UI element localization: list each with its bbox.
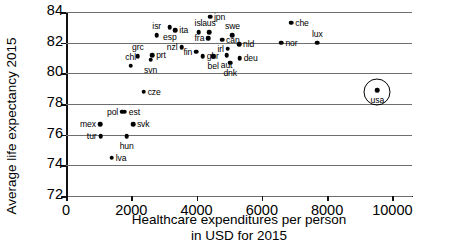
data-point-ita bbox=[173, 28, 178, 33]
data-point-label-irl: irl bbox=[218, 44, 224, 54]
data-point-gbr bbox=[200, 54, 205, 59]
data-point-fra bbox=[206, 36, 211, 41]
data-point-tur bbox=[98, 134, 103, 139]
data-point-label-swe: swe bbox=[225, 21, 240, 31]
data-point-label-nld: nld bbox=[243, 39, 254, 49]
data-point-label-svn: svn bbox=[144, 65, 157, 75]
data-point-prt bbox=[150, 53, 155, 58]
y-tick-label: 72 bbox=[47, 186, 63, 202]
data-point-label-pol: pol bbox=[107, 107, 118, 117]
x-tick-mark bbox=[392, 196, 394, 201]
data-point-svk bbox=[131, 122, 136, 127]
data-point-label-prt: prt bbox=[156, 50, 166, 60]
data-point-cze bbox=[141, 89, 146, 94]
y-tick-label: 74 bbox=[47, 155, 63, 171]
data-point-label-aus: aus bbox=[202, 18, 216, 28]
plot-area: 72747678808284 turmexlvapolesthunsvkchlc… bbox=[66, 12, 412, 196]
data-point-grc bbox=[136, 54, 141, 59]
data-point-esp bbox=[168, 25, 173, 30]
data-point-label-mex: mex bbox=[80, 119, 96, 129]
data-point-label-lva: lva bbox=[116, 153, 127, 163]
data-point-label-isr: isr bbox=[152, 21, 161, 31]
y-tick-label: 78 bbox=[47, 94, 63, 110]
data-point-aus bbox=[207, 30, 212, 35]
data-point-lva bbox=[109, 155, 114, 160]
data-point-label-fra: fra bbox=[195, 33, 205, 43]
scatter-chart-figure: Average life expectancy 2015 Healthcare … bbox=[0, 0, 450, 252]
x-tick-label: 4000 bbox=[180, 202, 212, 218]
data-point-isr bbox=[154, 33, 159, 38]
data-point-hun bbox=[124, 134, 129, 139]
x-tick-label: 8000 bbox=[311, 202, 343, 218]
data-point-label-grc: grc bbox=[132, 42, 144, 52]
gridline-y-72 bbox=[66, 196, 412, 197]
x-tick-mark bbox=[66, 196, 68, 201]
data-point-label-bel: bel bbox=[208, 61, 219, 71]
data-point-irl bbox=[226, 47, 231, 52]
data-point-label-che: che bbox=[295, 18, 309, 28]
gridline-y-80 bbox=[66, 73, 412, 74]
x-tick-mark bbox=[327, 196, 329, 201]
data-point-lux bbox=[315, 40, 320, 45]
data-point-label-svk: svk bbox=[137, 119, 150, 129]
data-point-che bbox=[289, 20, 294, 25]
data-point-can bbox=[220, 37, 225, 42]
data-point-label-dnk: dnk bbox=[223, 68, 237, 78]
x-tick-mark bbox=[131, 196, 133, 201]
data-point-swe bbox=[230, 33, 235, 38]
data-point-deu bbox=[237, 56, 242, 61]
y-axis-title: Average life expectancy 2015 bbox=[0, 0, 22, 252]
y-tick-label: 84 bbox=[47, 2, 63, 18]
data-point-label-fin: fin bbox=[183, 47, 192, 57]
x-tick-label: 2000 bbox=[115, 202, 147, 218]
data-point-label-nzl: nzl bbox=[167, 42, 178, 52]
data-point-label-lux: lux bbox=[312, 29, 323, 39]
data-point-aut bbox=[224, 53, 229, 58]
data-point-chl bbox=[128, 63, 133, 68]
data-point-dnk bbox=[228, 60, 233, 65]
x-tick-mark bbox=[197, 196, 199, 201]
data-point-label-ita: ita bbox=[179, 25, 188, 35]
data-point-fin bbox=[194, 50, 199, 55]
y-tick-label: 76 bbox=[47, 125, 63, 141]
y-tick-label: 82 bbox=[47, 33, 63, 49]
usa-highlight-circle bbox=[364, 79, 391, 106]
data-point-svn bbox=[148, 57, 153, 62]
gridline-y-84 bbox=[66, 12, 412, 13]
gridline-y-76 bbox=[66, 135, 412, 136]
data-point-nor bbox=[279, 40, 284, 45]
data-point-label-esp: esp bbox=[163, 32, 177, 42]
data-point-mex bbox=[98, 122, 103, 127]
data-point-nld bbox=[237, 42, 242, 47]
data-point-bel bbox=[211, 54, 216, 59]
x-axis-title-line2: in USD for 2015 bbox=[66, 228, 412, 244]
data-point-label-cze: cze bbox=[148, 87, 161, 97]
x-tick-label: 0 bbox=[62, 202, 70, 218]
data-point-label-chl: chl bbox=[125, 52, 136, 62]
gridline-y-78 bbox=[66, 104, 412, 105]
x-tick-label: 6000 bbox=[246, 202, 278, 218]
data-point-label-est: est bbox=[129, 107, 140, 117]
data-point-label-hun: hun bbox=[120, 141, 134, 151]
y-tick-label: 80 bbox=[47, 63, 63, 79]
gridline-y-74 bbox=[66, 165, 412, 166]
data-point-label-nor: nor bbox=[285, 38, 297, 48]
x-tick-label: 10000 bbox=[372, 202, 412, 218]
data-point-est bbox=[122, 109, 127, 114]
data-point-label-deu: deu bbox=[244, 53, 258, 63]
data-point-label-tur: tur bbox=[87, 131, 97, 141]
x-tick-mark bbox=[262, 196, 264, 201]
